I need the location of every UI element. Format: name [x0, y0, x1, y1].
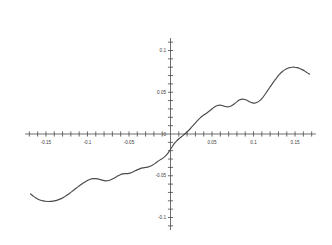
- x-tick-label: 0.1: [250, 140, 257, 145]
- chart-canvas: -0.15-0.1-0.050.050.10.15 0.10.050-0.05-…: [0, 0, 332, 245]
- x-tick-label: -0.15: [41, 140, 52, 145]
- y-tick-label: 0.1: [160, 48, 167, 53]
- y-tick-label: -0.1: [158, 215, 166, 220]
- x-tick-label: 0.15: [291, 140, 300, 145]
- function-plot: -0.15-0.1-0.050.050.10.15 0.10.050-0.05-…: [0, 0, 332, 245]
- y-tick-label: 0.05: [157, 90, 166, 95]
- axis-group: [25, 38, 316, 230]
- x-tick-label: 0.05: [208, 140, 217, 145]
- x-tick-label: -0.05: [124, 140, 135, 145]
- x-tick-label: -0.1: [84, 140, 92, 145]
- y-tick-label: -0.05: [156, 173, 167, 178]
- origin-label: 0: [163, 132, 166, 137]
